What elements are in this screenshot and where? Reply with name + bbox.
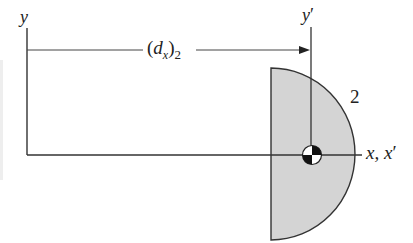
x-axis-label: x, x′: [366, 143, 397, 162]
dimension-label: (dx)2: [147, 38, 181, 61]
y-prime-axis-label: y′: [302, 6, 314, 24]
arrowhead-icon: [299, 46, 310, 54]
centroid-diagram: y y′ (dx)2 2 x, x′: [0, 0, 413, 243]
diagram-canvas: [0, 0, 413, 243]
shape-label: 2: [350, 87, 360, 106]
centroid-marker-icon: [303, 146, 322, 165]
y-axis-label: y: [20, 8, 28, 26]
